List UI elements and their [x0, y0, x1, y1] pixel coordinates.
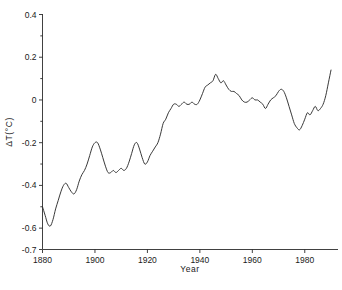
x-tick-label: 1940 — [190, 255, 209, 265]
y-tick-label: 0.4 — [25, 10, 37, 20]
x-tick-label: 1920 — [138, 255, 157, 265]
x-tick-label: 1900 — [85, 255, 104, 265]
y-axis-tick-labels: -0.7-0.6-0.4-0.200.20.4 — [22, 10, 37, 255]
x-axis: 188019001920194019601980 Year — [33, 250, 338, 275]
temperature-anomaly-line — [43, 70, 332, 226]
chart-figure: -0.7-0.6-0.4-0.200.20.4 ΔT(°C) 188019001… — [0, 0, 342, 290]
y-tick-label: -0.6 — [22, 223, 37, 233]
y-tick-label: -0.2 — [22, 138, 37, 148]
x-tick-label: 1880 — [33, 255, 52, 265]
y-axis-title: ΔT(°C) — [4, 117, 14, 147]
x-tick-label: 1980 — [295, 255, 314, 265]
y-tick-label: 0.2 — [25, 52, 37, 62]
x-axis-tick-labels: 188019001920194019601980 — [33, 255, 314, 265]
x-tick-label: 1960 — [243, 255, 262, 265]
y-tick-label: -0.7 — [22, 245, 37, 255]
y-tick-label: -0.4 — [22, 180, 37, 190]
y-tick-label: 0 — [32, 95, 37, 105]
y-axis-ticks — [39, 15, 43, 250]
y-axis: -0.7-0.6-0.4-0.200.20.4 ΔT(°C) — [4, 10, 43, 255]
x-axis-ticks — [43, 250, 305, 254]
x-axis-title: Year — [180, 264, 200, 274]
temperature-anomaly-chart: -0.7-0.6-0.4-0.200.20.4 ΔT(°C) 188019001… — [0, 0, 342, 290]
